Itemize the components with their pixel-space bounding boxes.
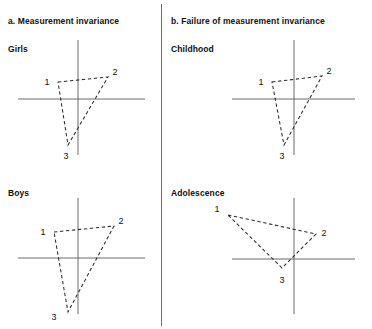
point-label-1: 1	[214, 204, 219, 214]
plot-adolescence: 123	[214, 198, 355, 314]
figure-container: a. Measurement invariance b. Failure of …	[0, 0, 372, 329]
point-label-3: 3	[279, 151, 284, 161]
point-label-1: 1	[258, 77, 263, 87]
point-label-2: 2	[118, 216, 123, 226]
plots-layer: 123123123123	[0, 0, 372, 329]
point-label-2: 2	[321, 228, 326, 238]
plot-childhood: 123	[232, 40, 355, 161]
plot-girls: 123	[18, 40, 145, 161]
point-label-1: 1	[44, 77, 49, 87]
dashed-triangle	[228, 215, 316, 268]
dashed-triangle	[58, 77, 108, 145]
point-label-3: 3	[63, 151, 68, 161]
point-label-3: 3	[279, 275, 284, 285]
point-label-2: 2	[326, 66, 331, 76]
point-label-1: 1	[40, 227, 45, 237]
plot-boys: 123	[18, 198, 145, 322]
dashed-triangle	[272, 76, 322, 145]
dashed-triangle	[54, 226, 114, 312]
point-label-3: 3	[51, 312, 56, 322]
point-label-2: 2	[112, 67, 117, 77]
